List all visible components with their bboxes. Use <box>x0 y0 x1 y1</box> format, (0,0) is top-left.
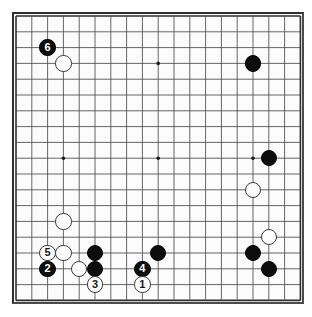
board-frame <box>12 12 304 304</box>
go-board-diagram: 652431 <box>0 0 312 317</box>
